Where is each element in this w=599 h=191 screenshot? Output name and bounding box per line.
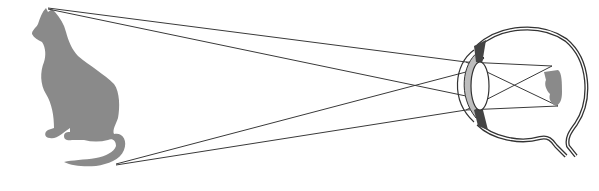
eye — [457, 29, 586, 156]
lens — [471, 62, 489, 110]
eye-image-formation-diagram — [0, 0, 599, 191]
cat-silhouette — [32, 8, 125, 166]
sclera — [478, 29, 586, 156]
